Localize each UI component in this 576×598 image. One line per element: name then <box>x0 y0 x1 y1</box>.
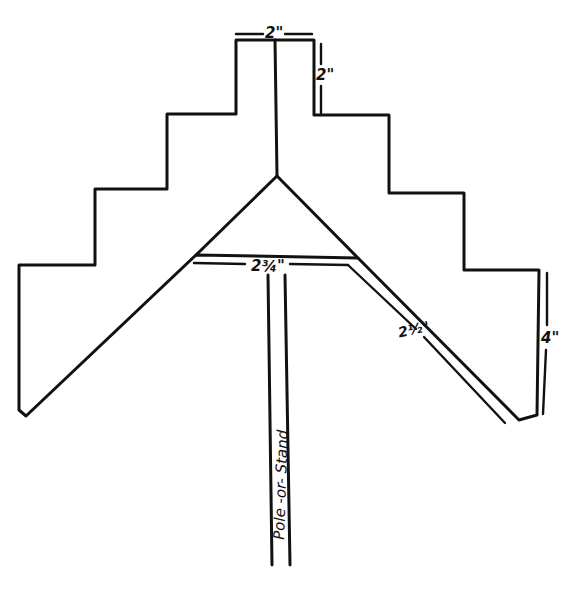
arm-width-label: 2½" <box>397 318 431 340</box>
pattern-diagram: 2" 2" 2¾" 2½" 4" Pole -or- Stand <box>0 0 576 598</box>
stepped-outline <box>19 40 539 420</box>
arm-parallel-line-upper <box>348 265 416 329</box>
top-width-label: 2" <box>265 24 283 42</box>
side-height-label: 4" <box>540 329 559 347</box>
inner-triangle <box>196 176 358 258</box>
side-height-dim-lower <box>543 350 546 414</box>
crossbar-dim-right <box>290 264 348 265</box>
crossbar-dim-left <box>194 263 245 264</box>
top-height-label: 2" <box>316 66 334 84</box>
center-seam <box>275 40 277 176</box>
crossbar-width-label: 2¾" <box>251 257 285 275</box>
arm-parallel-line-lower <box>424 337 505 423</box>
